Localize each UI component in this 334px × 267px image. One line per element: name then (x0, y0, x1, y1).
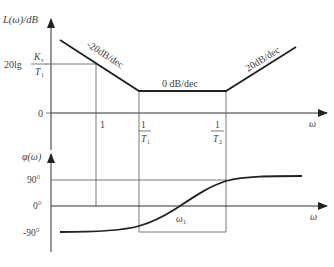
y-tick-neg90-label: -90° (23, 228, 40, 238)
svg-text:1: 1 (147, 139, 150, 145)
phase-plot: φ(ω) 90° 0° -90° ω 1 ω (22, 151, 327, 252)
bode-diagram: L(ω)/dB 20lg K v T 1 0 1 1 T 1 1 T 2 ω -… (0, 0, 334, 267)
svg-text:v: v (41, 57, 44, 63)
x-tick-1-over-T1-label: 1 T 1 (139, 120, 151, 145)
svg-text:1: 1 (183, 219, 186, 225)
svg-text:1: 1 (215, 120, 220, 130)
magnitude-x-axis-label: ω (309, 118, 316, 129)
slope-label-neg20: -20dB/dec (85, 38, 126, 70)
crossing-omega1-label: ω 1 (176, 214, 186, 225)
svg-text:1: 1 (141, 120, 146, 130)
magnitude-y-axis-label: L(ω)/dB (2, 14, 38, 26)
svg-text:K: K (33, 52, 41, 62)
svg-text:1: 1 (41, 72, 44, 78)
x-tick-1-label: 1 (100, 119, 105, 130)
svg-text:20lg: 20lg (4, 59, 22, 70)
y-tick-20lg-label: 20lg K v T 1 (4, 52, 47, 78)
slope-label-0: 0 dB/dec (162, 78, 198, 89)
y-tick-90-label: 90° (27, 175, 41, 185)
phase-x-axis-label: ω (310, 211, 317, 222)
y-tick-zero-label: 0 (38, 108, 43, 119)
phase-y-axis-label: φ(ω) (22, 151, 42, 163)
svg-text:ω: ω (176, 214, 183, 224)
y-tick-0-label: 0° (33, 201, 42, 211)
svg-text:2: 2 (219, 139, 222, 145)
x-tick-1-over-T2-label: 1 T 2 (211, 120, 224, 145)
